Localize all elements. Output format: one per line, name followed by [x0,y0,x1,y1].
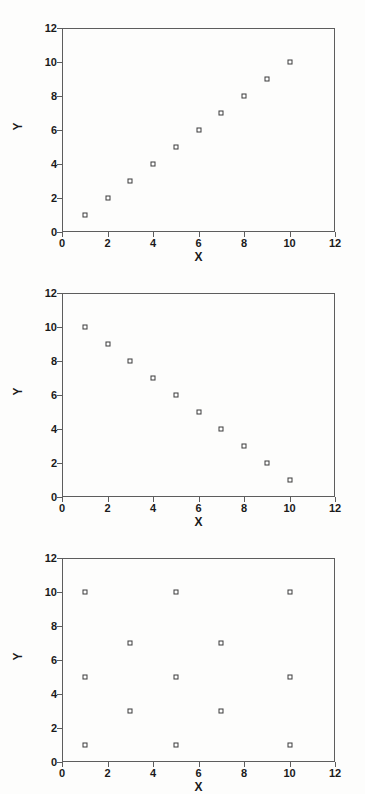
x-axis-tick-label: 0 [47,238,77,249]
data-point-marker [219,709,224,714]
data-point-marker [82,743,87,748]
data-point-marker [219,111,224,116]
y-axis-tick [57,558,62,559]
x-axis-tick-label: 12 [320,238,350,249]
data-point-marker [242,444,247,449]
x-axis-tick-label: 6 [184,503,214,514]
y-axis-tick-labels: 024681012 [33,558,57,762]
x-axis-label: X [62,251,335,264]
x-axis-tick-label: 0 [47,503,77,514]
y-axis-tick-label: 8 [35,91,57,102]
x-axis-tick-label: 2 [93,238,123,249]
y-axis-label: Y [12,387,25,395]
x-axis-tick-label: 4 [138,503,168,514]
data-point-marker [219,427,224,432]
data-point-marker [128,359,133,364]
x-axis-label: X [62,781,335,794]
y-axis-tick [57,327,62,328]
data-point-marker [287,675,292,680]
y-axis-tick [57,592,62,593]
data-point-marker [82,213,87,218]
data-point-marker [128,709,133,714]
x-axis-tick-label: 12 [320,503,350,514]
data-point-marker [173,675,178,680]
y-axis-tick-label: 6 [35,655,57,666]
y-axis-tick-label: 6 [35,390,57,401]
y-axis-tick [57,395,62,396]
y-axis-tick [57,626,62,627]
y-axis-tick-label: 4 [35,424,57,435]
x-axis-tick-label: 8 [229,503,259,514]
y-axis-tick [57,660,62,661]
y-axis-tick [57,28,62,29]
y-axis-tick-label: 12 [35,553,57,564]
data-point-marker [264,461,269,466]
scatter-panel-1: 024681012024681012XY [0,0,365,265]
y-axis-tick [57,361,62,362]
x-axis-label: X [62,516,335,529]
y-axis-tick-label: 0 [35,227,57,238]
x-axis-tick-label: 6 [184,238,214,249]
scatter-panel-3: 024681012024681012XY [0,530,365,794]
data-point-marker [242,94,247,99]
y-axis-tick [57,96,62,97]
figure-page: 024681012024681012XY 024681012024681012X… [0,0,365,794]
data-point-marker [151,376,156,381]
y-axis-tick [57,198,62,199]
x-axis-tick-label: 0 [47,768,77,779]
x-axis-tick-label: 12 [320,768,350,779]
y-axis-tick-label: 2 [35,458,57,469]
data-point-marker [105,196,110,201]
y-axis-label: Y [12,652,25,660]
y-axis-tick [57,130,62,131]
x-axis-tick-label: 6 [184,768,214,779]
x-axis-tick-label: 8 [229,238,259,249]
y-axis-tick-label: 4 [35,159,57,170]
x-axis-tick-label: 2 [93,768,123,779]
y-axis-tick-labels: 024681012 [33,293,57,497]
data-point-marker [264,77,269,82]
data-point-marker [287,590,292,595]
x-axis-tick-label: 4 [138,768,168,779]
data-point-marker [82,675,87,680]
y-axis-tick-label: 12 [35,288,57,299]
data-point-marker [151,162,156,167]
data-point-marker [82,325,87,330]
x-axis-tick-label: 8 [229,768,259,779]
data-point-marker [173,743,178,748]
data-point-marker [287,60,292,65]
data-point-marker [128,179,133,184]
data-point-marker [287,478,292,483]
y-axis-tick [57,694,62,695]
y-axis-label: Y [12,122,25,130]
data-point-marker [173,393,178,398]
data-point-marker [219,641,224,646]
y-axis-tick [57,293,62,294]
data-point-marker [196,410,201,415]
y-axis-tick-label: 4 [35,689,57,700]
data-point-marker [82,590,87,595]
data-point-marker [287,743,292,748]
scatter-panel-2: 024681012024681012XY [0,265,365,530]
y-axis-tick-label: 8 [35,621,57,632]
data-point-marker [196,128,201,133]
data-point-marker [105,342,110,347]
x-axis-tick-label: 4 [138,238,168,249]
y-axis-tick-labels: 024681012 [33,28,57,232]
plot-area [62,293,335,497]
y-axis-tick [57,429,62,430]
y-axis-tick-label: 10 [35,322,57,333]
y-axis-tick [57,728,62,729]
x-axis-tick-label: 10 [275,768,305,779]
y-axis-tick [57,62,62,63]
y-axis-tick-label: 0 [35,492,57,503]
data-point-marker [173,145,178,150]
plot-area [62,558,335,762]
y-axis-tick-label: 2 [35,193,57,204]
y-axis-tick [57,463,62,464]
y-axis-tick-label: 10 [35,587,57,598]
x-axis-tick-label: 10 [275,503,305,514]
data-point-marker [128,641,133,646]
y-axis-tick-label: 2 [35,723,57,734]
y-axis-tick-label: 6 [35,125,57,136]
